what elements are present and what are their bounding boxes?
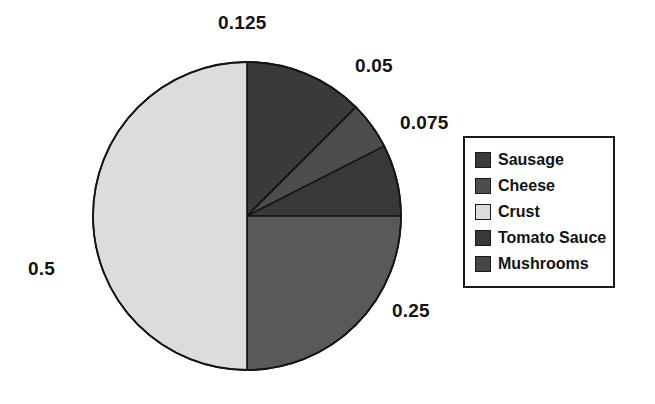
- pie-slice: [93, 62, 247, 370]
- legend-item-label: Crust: [498, 204, 540, 220]
- legend-item-label: Tomato Sauce: [498, 230, 606, 246]
- legend-color-swatch: [475, 230, 491, 246]
- legend-color-swatch: [475, 204, 491, 220]
- slice-value-label: 0.05: [355, 55, 393, 77]
- slice-value-label: 0.5: [28, 258, 55, 280]
- legend-item: Cheese: [475, 173, 605, 199]
- legend-color-swatch: [475, 256, 491, 272]
- legend-item: Sausage: [475, 147, 605, 173]
- legend-color-swatch: [475, 178, 491, 194]
- legend-item: Tomato Sauce: [475, 225, 605, 251]
- slice-value-label: 0.25: [392, 300, 430, 322]
- pie-slice: [247, 216, 401, 370]
- pie-slice-group: [93, 62, 401, 370]
- legend-item-label: Mushrooms: [498, 256, 589, 272]
- chart-canvas: 0.1250.050.0750.250.5 SausageCheeseCrust…: [0, 0, 655, 404]
- legend-item: Crust: [475, 199, 605, 225]
- slice-value-label: 0.125: [218, 12, 267, 34]
- legend-item-label: Sausage: [498, 152, 564, 168]
- legend-box: SausageCheeseCrustTomato SauceMushrooms: [463, 136, 615, 288]
- legend-color-swatch: [475, 152, 491, 168]
- legend-item: Mushrooms: [475, 251, 605, 277]
- slice-value-label: 0.075: [400, 112, 449, 134]
- legend-item-label: Cheese: [498, 178, 555, 194]
